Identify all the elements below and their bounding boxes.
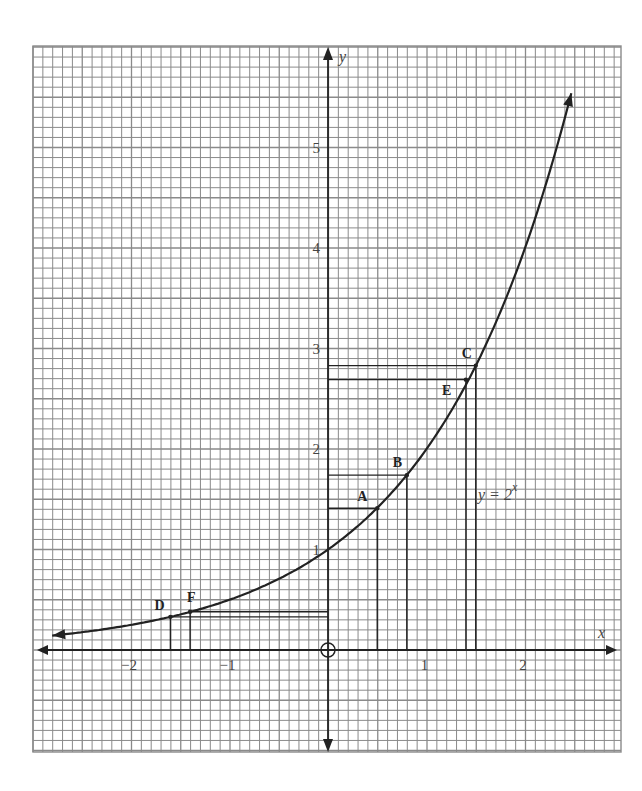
x-tick-label: 2: [519, 657, 527, 673]
function-label-exponent: x: [511, 480, 518, 494]
graph-paper-grid: [33, 46, 621, 752]
axes: [37, 47, 617, 752]
x-tick-label: −2: [121, 657, 137, 673]
function-label: y = 2x: [476, 480, 518, 504]
point-d: D: [154, 598, 172, 619]
point-b: B: [393, 455, 409, 477]
exponential-graph: ABCDEF x y y = 2x −2−11212345: [0, 0, 642, 791]
x-tick-label: 1: [421, 657, 429, 673]
point-label: E: [442, 383, 451, 398]
y-tick-label: 5: [313, 140, 321, 156]
y-tick-label: 1: [313, 542, 321, 558]
x-tick-label: −1: [220, 657, 236, 673]
projection-lines: [170, 366, 475, 650]
y-tick-label: 4: [313, 240, 321, 256]
labeled-points: ABCDEF: [154, 346, 478, 619]
y-tick-label: 2: [313, 441, 321, 457]
point-label: B: [393, 455, 402, 470]
point-label: D: [154, 598, 164, 613]
x-axis-label: x: [597, 624, 605, 641]
point-label: F: [187, 590, 196, 605]
point-label: C: [462, 346, 472, 361]
point-label: A: [357, 489, 368, 504]
y-axis-label: y: [337, 48, 347, 66]
function-label-base: y = 2: [476, 486, 512, 504]
y-tick-label: 3: [313, 341, 321, 357]
